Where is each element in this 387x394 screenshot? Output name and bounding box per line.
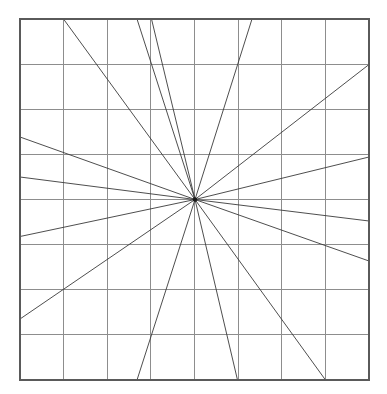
radiating-lines-diagram <box>0 0 387 394</box>
center-intersection-dot <box>193 197 197 201</box>
figure-container <box>0 0 387 394</box>
